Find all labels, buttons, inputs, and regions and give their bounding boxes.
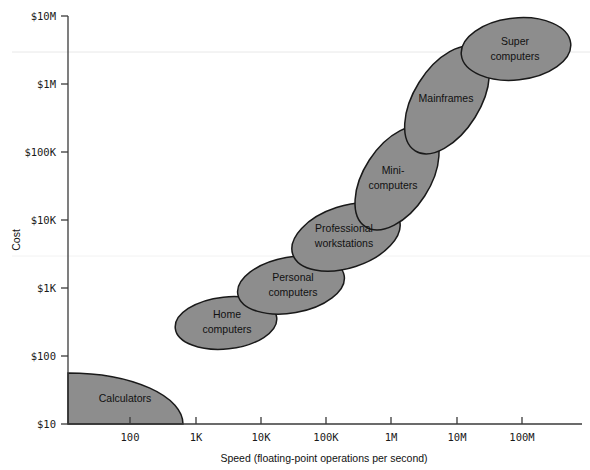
region-label-home-computers-line2: computers [202,323,251,335]
y-tick-label-10k: $10K [31,214,57,226]
region-label-calculators: Calculators [99,392,152,404]
y-axis-ticks [61,16,68,424]
y-axis-tick-labels: $10M $1M $100K $10K $1K $100 $10 [24,10,56,430]
y-tick-label-100: $100 [31,350,56,362]
region-label-mainframes: Mainframes [419,92,474,104]
region-label-professional-workstations-line1: Professional [315,222,373,234]
regions-group [68,12,574,424]
region-label-personal-computers-line1: Personal [272,271,313,283]
x-tick-label-1m: 1M [385,431,398,443]
region-label-mini-computers-line2: computers [368,179,417,191]
x-tick-label-10k: 10K [252,431,272,443]
x-tick-label-100: 100 [121,431,140,443]
region-label-super-computers-line2: computers [490,50,539,62]
region-label-super-computers-line1: Super [501,35,530,47]
computer-cost-speed-chart: Calculators Home computers Personal comp… [0,0,590,470]
x-tick-label-1k: 1K [190,431,203,443]
y-tick-label-100k: $100K [24,146,56,158]
y-axis-title: Cost [10,229,22,251]
region-label-home-computers-line1: Home [213,308,241,320]
region-label-personal-computers-line2: computers [268,286,317,298]
x-tick-label-10m: 10M [448,431,467,443]
y-tick-label-1k: $1K [37,282,57,294]
region-label-mini-computers-line1: Mini- [382,164,405,176]
y-tick-label-10m: $10M [31,10,56,22]
chart-container: Calculators Home computers Personal comp… [0,0,590,470]
y-tick-label-10: $10 [37,418,56,430]
region-label-professional-workstations-line2: workstations [314,237,373,249]
y-tick-label-1m: $1M [37,78,56,90]
x-tick-label-100m: 100M [509,431,534,443]
x-tick-label-100k: 100K [313,431,339,443]
x-axis-title: Speed (floating-point operations per sec… [220,452,427,464]
x-axis-ticks [130,417,522,424]
x-axis-tick-labels: 100 1K 10K 100K 1M 10M 100M [121,431,535,443]
